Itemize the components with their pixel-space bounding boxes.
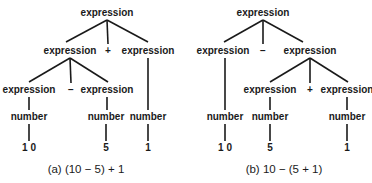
- node-number: number: [252, 111, 289, 122]
- node-literal: 1 0: [218, 142, 232, 153]
- node-number: number: [130, 111, 167, 122]
- node-number: number: [11, 111, 48, 122]
- node-expression: expression: [244, 84, 297, 95]
- node-expression: expression: [197, 45, 250, 56]
- parse-tree-diagram: expressionexpression+expressionexpressio…: [0, 0, 372, 183]
- caption-b: (b) 10 − (5 + 1): [246, 163, 323, 175]
- node-expression: expression: [44, 45, 97, 56]
- node-expression: expression: [122, 45, 175, 56]
- node-expression: expression: [284, 45, 337, 56]
- tree-edge: [263, 20, 303, 42]
- tree-edge: [270, 58, 310, 82]
- node-number: number: [207, 111, 244, 122]
- node-number: number: [329, 111, 366, 122]
- parse-tree-b: expressionexpression−expressionexpressio…: [197, 7, 372, 153]
- tree-edge: [66, 20, 107, 42]
- node-expression: expression: [3, 84, 56, 95]
- tree-edge: [107, 20, 148, 42]
- node-operator: +: [105, 45, 111, 56]
- tree-edge: [70, 58, 108, 82]
- node-expression: expression: [237, 7, 290, 18]
- tree-edge: [29, 58, 70, 82]
- node-expression: expression: [81, 84, 134, 95]
- parse-tree-a: expressionexpression+expressionexpressio…: [3, 7, 175, 153]
- tree-edge: [224, 20, 263, 42]
- node-number: number: [88, 111, 125, 122]
- tree-edge: [70, 58, 71, 83]
- node-expression: expression: [321, 84, 372, 95]
- node-operator: +: [307, 84, 313, 95]
- tree-edge: [310, 58, 348, 82]
- caption-a: (a) (10 − 5) + 1: [48, 163, 125, 175]
- node-literal: 1: [344, 142, 350, 153]
- node-literal: 5: [267, 142, 273, 153]
- node-operator: −: [260, 45, 266, 56]
- node-literal: 1: [145, 142, 151, 153]
- node-expression: expression: [81, 7, 134, 18]
- tree-edge: [107, 20, 108, 44]
- node-literal: 1 0: [22, 142, 36, 153]
- node-operator: −: [68, 84, 74, 95]
- node-literal: 5: [103, 142, 109, 153]
